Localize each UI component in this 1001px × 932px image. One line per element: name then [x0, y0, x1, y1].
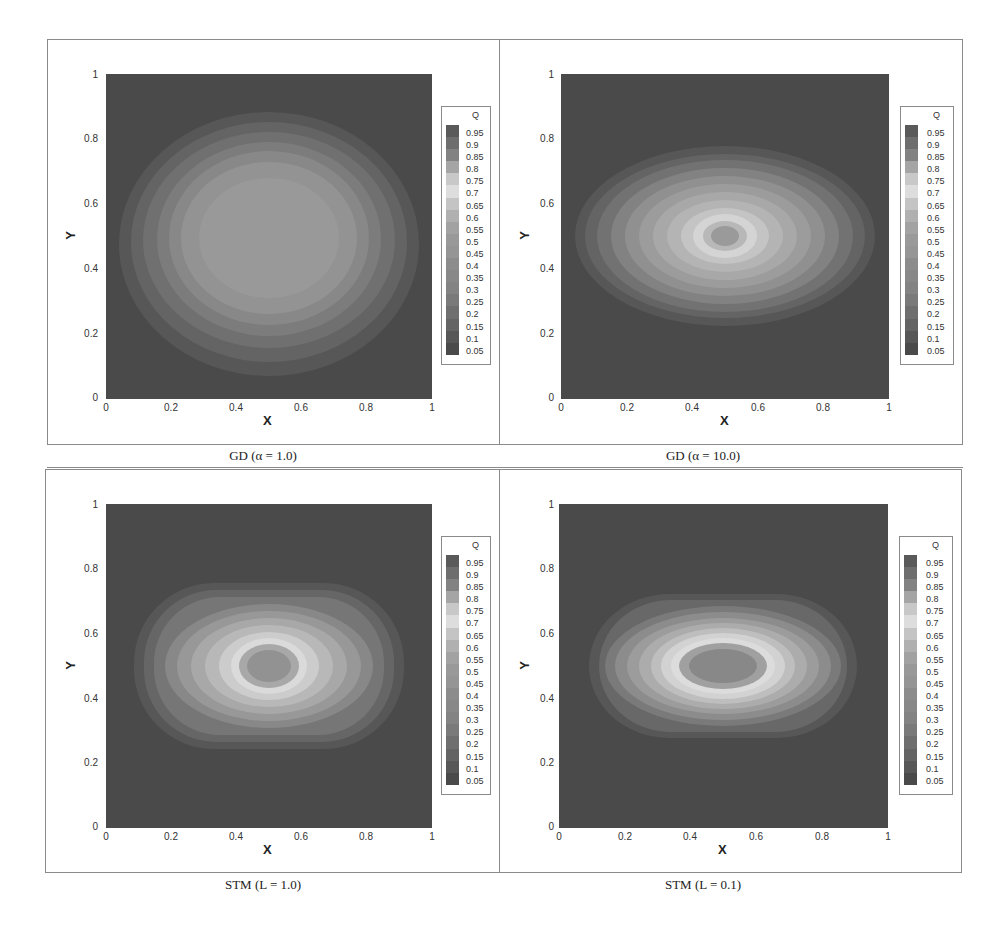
- colorbar-swatch: [904, 555, 917, 567]
- y-tick: 0.4: [74, 694, 98, 704]
- divider: [47, 467, 963, 468]
- colorbar-title: Q: [932, 540, 939, 550]
- y-tick: 0: [530, 822, 554, 832]
- colorbar-level-label: 0.85: [926, 581, 944, 593]
- y-tick: 0: [74, 822, 98, 832]
- colorbar-level-label: 0.15: [926, 751, 944, 763]
- colorbar-swatch: [904, 603, 917, 615]
- colorbar-swatch: [446, 198, 459, 210]
- x-axis-label: X: [263, 413, 272, 428]
- colorbar-level-label: 0.6: [466, 642, 484, 654]
- colorbar-level-label: 0.2: [927, 308, 945, 320]
- colorbar-level-label: 0.75: [466, 175, 484, 187]
- colorbar-swatch: [446, 652, 459, 664]
- x-tick: 0.2: [615, 403, 639, 413]
- colorbar-level-label: 0.15: [466, 321, 484, 333]
- colorbar-level-label: 0.6: [926, 642, 944, 654]
- colorbar-level-label: 0.35: [466, 702, 484, 714]
- colorbar-level-label: 0.15: [927, 321, 945, 333]
- x-tick: 0.2: [159, 832, 183, 842]
- y-axis-label: Y: [517, 231, 532, 240]
- contour-plot: [106, 504, 432, 828]
- colorbar-level-label: 0.2: [466, 738, 484, 750]
- colorbar-level-label: 0.35: [926, 702, 944, 714]
- colorbar-swatch: [446, 688, 459, 700]
- colorbar-level-label: 0.8: [466, 163, 484, 175]
- colorbar-swatch: [904, 591, 917, 603]
- colorbar-level-label: 0.2: [466, 308, 484, 320]
- colorbar-level-label: 0.95: [466, 557, 484, 569]
- colorbar-level-label: 0.65: [466, 630, 484, 642]
- colorbar-swatch: [905, 319, 918, 331]
- colorbar-legend: Q 0.950.90.850.80.750.70.650.60.550.50.4…: [441, 106, 491, 365]
- colorbar-level-label: 0.45: [466, 678, 484, 690]
- colorbar-level-label: 0.35: [927, 272, 945, 284]
- colorbar-swatch: [446, 234, 459, 246]
- y-axis-label: Y: [517, 661, 532, 670]
- colorbar-swatch: [446, 640, 459, 652]
- colorbar-level-label: 0.5: [926, 666, 944, 678]
- colorbar-level-label: 0.7: [466, 617, 484, 629]
- colorbar-level-label: 0.15: [466, 751, 484, 763]
- colorbar-swatch: [446, 749, 459, 761]
- colorbar-level-label: 0.45: [927, 248, 945, 260]
- colorbar-level-label: 0.1: [466, 763, 484, 775]
- colorbar-level-label: 0.75: [466, 605, 484, 617]
- y-tick: 0.6: [74, 199, 98, 209]
- colorbar-swatch: [446, 306, 459, 318]
- caption-stm-l-0-1: STM (L = 0.1): [553, 877, 853, 893]
- y-tick: 0.6: [74, 629, 98, 639]
- colorbar-swatch: [446, 736, 459, 748]
- y-tick: 0.4: [74, 264, 98, 274]
- y-tick: 0.6: [530, 629, 554, 639]
- panel-stm-l-1: 1 0.8 0.6 0.4 0.2 0 0 0.2 0.4 0.6 0.8 1 …: [45, 469, 500, 873]
- colorbar-swatch: [904, 761, 917, 773]
- colorbar-level-label: 0.55: [927, 224, 945, 236]
- colorbar-level-label: 0.8: [927, 163, 945, 175]
- colorbar-level-label: 0.85: [466, 581, 484, 593]
- y-tick: 0.6: [530, 199, 554, 209]
- colorbar-swatch: [904, 700, 917, 712]
- y-tick: 0: [530, 393, 554, 403]
- y-tick: 0.2: [74, 758, 98, 768]
- colorbar-swatch: [905, 246, 918, 258]
- y-tick: 0.4: [530, 694, 554, 704]
- colorbar-swatch: [446, 628, 459, 640]
- y-axis-label: Y: [63, 661, 78, 670]
- colorbar-swatch: [905, 306, 918, 318]
- colorbar-level-label: 0.95: [926, 557, 944, 569]
- contour-plot: [106, 74, 432, 399]
- x-tick: 0.6: [289, 403, 313, 413]
- colorbar-swatch: [446, 222, 459, 234]
- colorbar-swatches: [904, 555, 917, 785]
- colorbar-swatch: [446, 591, 459, 603]
- panel-stm-l-0-1: 1 0.8 0.6 0.4 0.2 0 0 0.2 0.4 0.6 0.8 1 …: [499, 469, 962, 873]
- colorbar-labels: 0.950.90.850.80.750.70.650.60.550.50.450…: [927, 127, 945, 357]
- colorbar-swatch: [905, 222, 918, 234]
- colorbar-swatch: [904, 579, 917, 591]
- colorbar-level-label: 0.1: [926, 763, 944, 775]
- y-tick: 1: [530, 500, 554, 510]
- colorbar-level-label: 0.8: [926, 593, 944, 605]
- colorbar-level-label: 0.75: [926, 605, 944, 617]
- colorbar-level-label: 0.65: [927, 200, 945, 212]
- colorbar-legend: Q 0.950.90.850.80.750.70.650.60.550.50.4…: [899, 536, 953, 795]
- y-tick: 0.8: [74, 564, 98, 574]
- x-tick: 1: [420, 832, 444, 842]
- colorbar-level-label: 0.3: [926, 714, 944, 726]
- colorbar-labels: 0.950.90.850.80.750.70.650.60.550.50.450…: [466, 127, 484, 357]
- colorbar-level-label: 0.9: [926, 569, 944, 581]
- colorbar-level-label: 0.3: [927, 284, 945, 296]
- colorbar-level-label: 0.55: [466, 654, 484, 666]
- colorbar-swatch: [905, 270, 918, 282]
- x-tick: 0.8: [810, 832, 834, 842]
- colorbar-level-label: 0.85: [466, 151, 484, 163]
- colorbar-swatch: [446, 246, 459, 258]
- colorbar-swatch: [446, 773, 459, 785]
- colorbar-swatch: [904, 712, 917, 724]
- colorbar-swatch: [904, 628, 917, 640]
- contour-plot: [559, 504, 888, 828]
- colorbar-level-label: 0.2: [926, 738, 944, 750]
- colorbar-swatch: [446, 603, 459, 615]
- colorbar-swatch: [905, 234, 918, 246]
